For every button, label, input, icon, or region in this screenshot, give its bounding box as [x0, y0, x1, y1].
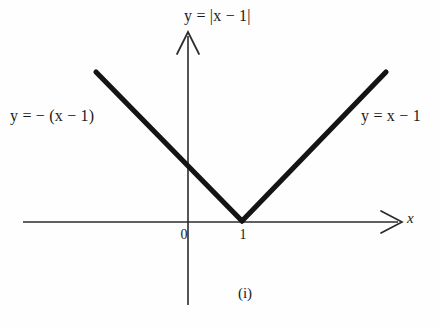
curve-title-label: y = |x − 1| [184, 8, 251, 24]
left-branch-line [96, 72, 242, 221]
math-figure: y = |x − 1| y = − (x − 1) y = x − 1 0 1 … [0, 0, 439, 327]
x-tick-label-1: 1 [233, 228, 253, 242]
x-axis-label: x [407, 211, 414, 226]
x-tick-label-0: 0 [174, 228, 194, 242]
right-branch-line [242, 72, 386, 221]
graph-canvas [0, 0, 439, 327]
left-branch-equation-label: y = − (x − 1) [10, 108, 94, 124]
figure-caption: (i) [225, 286, 265, 301]
right-branch-equation-label: y = x − 1 [361, 108, 421, 124]
